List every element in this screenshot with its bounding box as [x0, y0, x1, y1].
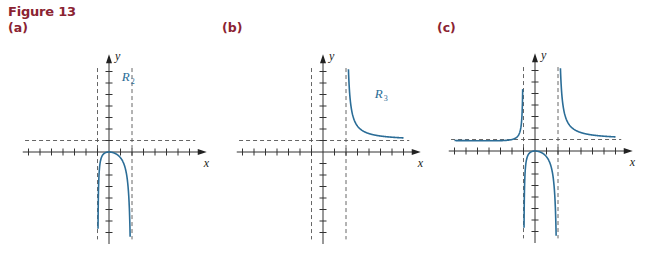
panel-a-graph: xyR2 [23, 49, 210, 244]
y-axis-arrow-icon [106, 54, 112, 63]
curve-label: R [374, 86, 383, 101]
y-axis-arrow-icon [320, 54, 326, 63]
panel-c-graph: xy [449, 48, 636, 243]
x-axis-arrow-icon [198, 149, 207, 155]
curve-r3 [348, 69, 403, 138]
y-axis-label: y [328, 49, 335, 63]
figure-plot-area: xyR2 xyR3 xy [0, 0, 652, 263]
x-axis-label: x [629, 155, 636, 169]
curve-r3 [560, 68, 615, 137]
curve-label-subscript: 3 [384, 94, 388, 103]
y-axis-arrow-icon [532, 53, 538, 62]
curve-r2 [98, 152, 130, 237]
x-axis-label: x [417, 156, 424, 170]
x-axis-arrow-icon [412, 149, 421, 155]
curve-label-subscript: 2 [131, 77, 135, 86]
panel-b-graph: xyR3 [237, 49, 424, 244]
y-axis-label: y [114, 49, 121, 63]
curve-r2 [524, 151, 556, 236]
x-axis-arrow-icon [624, 148, 633, 154]
curve-label: R [121, 69, 130, 84]
y-axis-label: y [540, 48, 547, 62]
curve-r1 [455, 89, 523, 141]
x-axis-label: x [203, 156, 210, 170]
